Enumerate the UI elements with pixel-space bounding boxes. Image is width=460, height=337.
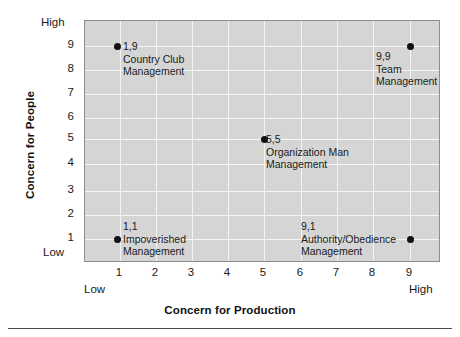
x-tick-label-4: 4 <box>215 266 239 278</box>
x-tick-label-9: 9 <box>397 266 421 278</box>
gridline-horizontal-6 <box>85 118 439 119</box>
x-tick-label-6: 6 <box>288 266 312 278</box>
managerial-grid-figure: 1,9 Country Club Management 9,9 Team Man… <box>0 0 460 337</box>
annotation-9-1: 9,1 Authority/Obedience Management <box>301 220 396 258</box>
y-axis-low-label: Low <box>43 246 64 258</box>
annotation-5-5-coord: 5,5 <box>266 133 349 146</box>
gridline-vertical-1 <box>120 21 121 261</box>
x-tick-label-5: 5 <box>251 266 275 278</box>
x-axis-low-label: Low <box>84 283 105 295</box>
annotation-9-9: 9,9 Team Management <box>376 50 437 88</box>
x-tick-label-7: 7 <box>324 266 348 278</box>
y-tick-label-8: 8 <box>52 62 74 74</box>
y-axis-high-label: High <box>41 16 65 28</box>
annotation-9-1-line2: Management <box>301 245 396 258</box>
data-point-9-1[interactable] <box>407 236 414 243</box>
annotation-1-1-line2: Management <box>123 245 186 258</box>
y-tick-label-2: 2 <box>52 207 74 219</box>
gridline-horizontal-7 <box>85 94 439 95</box>
x-tick-label-8: 8 <box>360 266 384 278</box>
annotation-9-9-line2: Management <box>376 75 437 88</box>
annotation-1-9-coord: 1,9 <box>123 40 184 53</box>
gridline-horizontal-4 <box>85 164 439 165</box>
gridline-horizontal-2 <box>85 215 439 216</box>
x-axis-high-label: High <box>409 283 433 295</box>
annotation-9-9-coord: 9,9 <box>376 50 437 63</box>
x-tick-label-2: 2 <box>143 266 167 278</box>
y-tick-label-1: 1 <box>52 231 74 243</box>
annotation-9-9-line1: Team <box>376 63 437 76</box>
x-axis-title: Concern for Production <box>0 304 460 316</box>
x-tick-label-1: 1 <box>107 266 131 278</box>
annotation-5-5-line2: Management <box>266 158 349 171</box>
gridline-vertical-3 <box>192 21 193 261</box>
y-tick-label-4: 4 <box>52 156 74 168</box>
annotation-1-1: 1,1 Impoverished Management <box>123 220 186 258</box>
gridline-vertical-4 <box>228 21 229 261</box>
data-point-9-9[interactable] <box>407 43 414 50</box>
y-tick-label-5: 5 <box>52 131 74 143</box>
annotation-1-9-line2: Management <box>123 65 184 78</box>
data-point-1-9[interactable] <box>114 43 121 50</box>
annotation-9-1-line1: Authority/Obedience <box>301 233 396 246</box>
y-tick-label-9: 9 <box>52 38 74 50</box>
y-axis-title: Concern for People <box>24 60 36 230</box>
annotation-1-1-coord: 1,1 <box>123 220 186 233</box>
annotation-9-1-coord: 9,1 <box>301 220 396 233</box>
y-tick-label-6: 6 <box>52 110 74 122</box>
gridline-horizontal-3 <box>85 191 439 192</box>
y-tick-label-7: 7 <box>52 86 74 98</box>
data-point-1-1[interactable] <box>114 236 121 243</box>
annotation-5-5: 5,5 Organization Man Management <box>266 133 349 171</box>
annotation-1-1-line1: Impoverished <box>123 233 186 246</box>
annotation-5-5-line1: Organization Man <box>266 146 349 159</box>
annotation-1-9: 1,9 Country Club Management <box>123 40 184 78</box>
y-tick-label-3: 3 <box>52 183 74 195</box>
bottom-divider-rule <box>8 328 452 329</box>
annotation-1-9-line1: Country Club <box>123 53 184 66</box>
x-tick-label-3: 3 <box>179 266 203 278</box>
